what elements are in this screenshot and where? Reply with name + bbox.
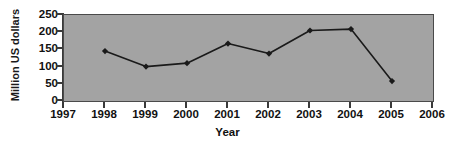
x-axis-tick-mark <box>103 102 105 108</box>
x-axis-tick-mark <box>267 102 269 108</box>
x-axis-tick-mark <box>62 102 64 108</box>
data-point-marker <box>143 64 149 70</box>
y-axis-tick-label: 150 <box>22 42 58 54</box>
y-axis-tick-mark <box>56 13 63 15</box>
series-polyline <box>105 29 392 81</box>
y-axis-tick-label: 0 <box>22 94 58 106</box>
data-point-marker <box>307 27 313 33</box>
y-axis-tick-label: 50 <box>22 77 58 89</box>
x-axis-tick-mark <box>431 102 433 108</box>
data-point-marker <box>266 50 272 56</box>
x-axis-tick-mark <box>390 102 392 108</box>
data-point-marker <box>102 48 108 54</box>
x-axis-tick-mark <box>308 102 310 108</box>
y-axis-tick-mark <box>56 47 63 49</box>
y-axis-tick-label: 100 <box>22 60 58 72</box>
x-axis-title: Year <box>0 126 455 138</box>
data-point-marker <box>184 60 190 66</box>
y-axis-tick-labels: 050100150200250 <box>22 7 58 107</box>
y-axis-tick-mark <box>56 65 63 67</box>
plot-area <box>63 14 434 102</box>
x-axis-tick-label: 2006 <box>407 107 455 121</box>
y-axis-tick-mark <box>56 30 63 32</box>
x-axis-tick-mark <box>144 102 146 108</box>
x-axis-tick-mark <box>226 102 228 108</box>
y-axis-tick-mark <box>56 99 63 101</box>
data-series-line <box>64 15 433 101</box>
data-point-marker <box>225 40 231 46</box>
y-axis-tick-mark <box>56 82 63 84</box>
x-axis-tick-mark <box>185 102 187 108</box>
y-axis-tick-label: 250 <box>22 8 58 20</box>
x-axis-tick-mark <box>349 102 351 108</box>
y-axis-title: Million US dollars <box>7 5 23 105</box>
line-chart: Million US dollars 050100150200250 Year … <box>0 0 455 151</box>
y-axis-tick-label: 200 <box>22 25 58 37</box>
